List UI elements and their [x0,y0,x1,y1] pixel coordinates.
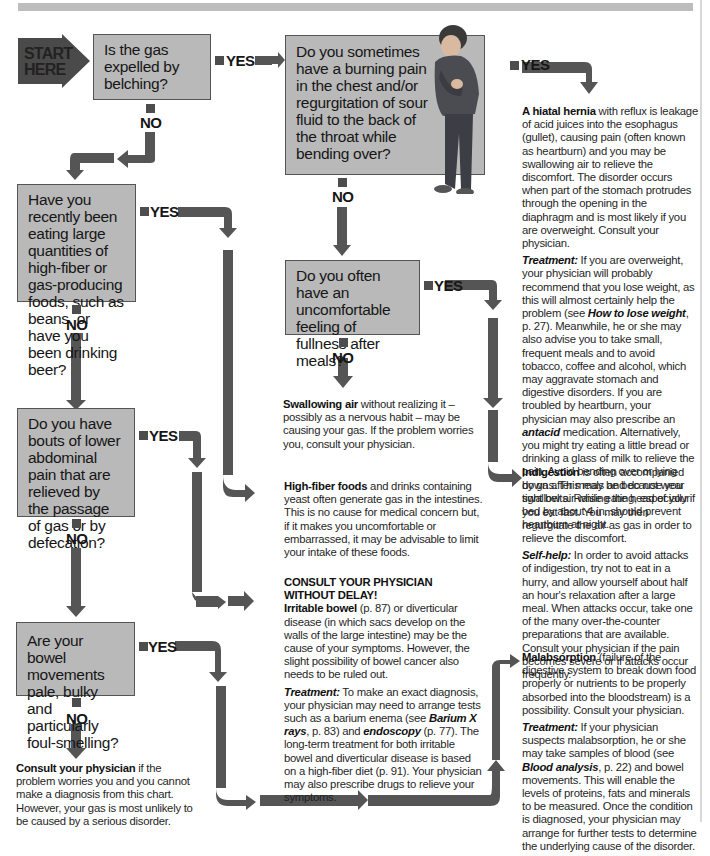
treatment-label: Treatment: [522,721,578,733]
outcome-title: A hiatal hernia [522,105,596,117]
outcome-body: with reflux is leakage of acid juices in… [522,105,698,249]
no-marker [339,338,348,347]
outcome-high-fiber: High-fiber foods and drinks containing y… [284,480,484,563]
treatment-label: Treatment: [522,254,578,266]
start-line2: HERE [24,62,72,78]
outcome-title: Swallowing air [283,398,358,410]
outcome-title: High-fiber foods [284,480,367,492]
question-box-bowel-movements: Are your bowel movements pale, bulky and… [16,622,135,696]
no-marker [72,519,81,528]
start-line1: START [24,46,72,62]
yes-label: YES [434,277,463,294]
outcome-title: Consult your physician [16,762,135,774]
no-label: NO [66,530,88,547]
treatment-text: , p. 27). Meanwhile, he or she may also … [522,307,689,425]
start-here-label: START HERE [24,46,72,78]
outcome-malabsorption: Malabsorption (failure of the digestive … [522,651,698,856]
yes-label: YES [226,52,255,69]
question-box-fullness: Do you often have an uncomfortable feeli… [285,260,420,335]
question-box-abdominal-pain: Do you have bouts of lower abdominal pai… [17,408,135,517]
no-label: NO [332,349,354,366]
yes-marker [140,207,149,216]
yes-marker [510,61,519,70]
urgent-heading: CONSULT YOUR PHYSICIAN [284,576,484,589]
question-text: Is the gas expelled by belching? [104,41,179,92]
urgent-heading: WITHOUT DELAY! [284,589,484,602]
no-label: NO [66,316,88,333]
self-help-label: Self-help: [522,549,571,561]
page-reference: endoscopy [363,725,420,737]
page-reference: How to lose weight [588,307,686,319]
page-reference: Blood analysis [522,761,598,773]
yes-label: YES [521,56,550,73]
yes-label: YES [149,427,178,444]
outcome-consult-physician: Consult your physician if the problem wo… [16,762,196,832]
question-box-high-fiber: Have you recently been eating large quan… [17,184,136,302]
drug-reference: antacid [522,426,560,438]
treatment-text: , p. 22) and bowel movements. This will … [522,761,696,852]
no-marker [72,698,81,707]
outcome-title: Indigestion [522,466,580,478]
outcome-swallowing-air: Swallowing air without realizing it – po… [283,398,478,455]
yes-marker [139,431,148,440]
outcome-irritable-bowel: CONSULT YOUR PHYSICIAN WITHOUT DELAY! Ir… [284,576,484,808]
question-box-belching: Is the gas expelled by belching? [93,34,211,100]
no-label: NO [332,188,354,205]
question-text: Have you recently been eating large quan… [28,191,124,378]
yes-marker [215,56,224,65]
no-marker [72,305,81,314]
yes-label: YES [148,638,177,655]
man-clutching-chest-illustration [413,24,509,194]
treatment-text: , p. 83) and [306,725,363,737]
no-marker [338,178,347,187]
no-label: NO [66,710,88,727]
no-marker [146,104,155,113]
outcome-title: Irritable bowel [284,602,357,614]
yes-marker [424,281,433,290]
no-label: NO [140,114,162,131]
yes-label: YES [150,203,179,220]
outcome-title: Malabsorption [522,651,596,663]
question-text: Are your bowel movements pale, bulky and… [27,632,118,751]
treatment-label: Treatment: [284,686,340,698]
yes-marker [139,642,148,651]
